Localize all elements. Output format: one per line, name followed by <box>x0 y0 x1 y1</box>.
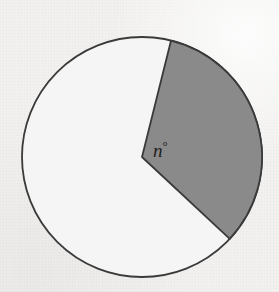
angle-label-variable: n <box>153 140 163 161</box>
circle-sector-diagram: n° <box>0 0 279 292</box>
degree-symbol-icon: ° <box>163 138 168 153</box>
figure-canvas: n° <box>0 0 279 292</box>
